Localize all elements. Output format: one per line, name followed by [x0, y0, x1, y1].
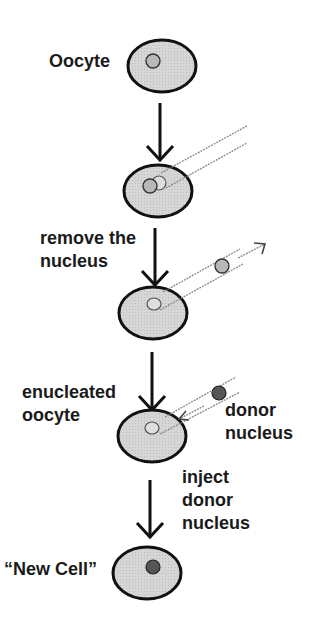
cell-nucleus-removed — [119, 243, 265, 339]
label-inject-donor-nucleus: inject donor nucleus — [182, 467, 250, 533]
nucleus — [143, 179, 157, 193]
oocyte-cell — [128, 40, 196, 92]
empty-nucleus-site — [145, 422, 159, 434]
pipette-upper-wall — [163, 249, 240, 292]
injection-arrow-icon — [179, 411, 189, 420]
removed-nucleus — [215, 259, 229, 273]
oocyte-nucleus — [146, 54, 160, 68]
donor-nucleus-in-cell — [146, 560, 160, 574]
down-arrow-2 — [142, 228, 168, 285]
empty-nucleus-site — [147, 298, 161, 310]
label-enucleated-oocyte: enucleated oocyte — [22, 382, 121, 425]
label-oocyte: Oocyte — [49, 51, 110, 71]
down-arrow-3 — [139, 352, 165, 410]
enucleated-cell-with-pipette — [118, 377, 240, 462]
extraction-arrow-icon — [254, 243, 265, 254]
down-arrow-1 — [147, 103, 173, 160]
nuclear-transfer-diagram: Oocyte remove the nucleus enucl — [0, 0, 315, 623]
label-remove-nucleus: remove the nucleus — [40, 228, 141, 271]
label-donor-nucleus: donor nucleus — [225, 400, 293, 443]
cell-with-pipette — [124, 126, 247, 217]
extraction-direction-line — [238, 244, 265, 258]
new-cell — [113, 547, 181, 599]
donor-nucleus — [212, 386, 226, 400]
pipette-lower-wall — [166, 143, 247, 188]
down-arrow-4 — [137, 480, 163, 537]
label-new-cell: “New Cell” — [4, 559, 97, 579]
